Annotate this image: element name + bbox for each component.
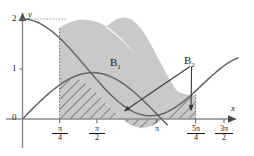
b2-arrow-vertical bbox=[191, 67, 192, 111]
x-tick-label-pi-over-2: π 2 bbox=[89, 125, 105, 143]
y-axis-label: y bbox=[28, 10, 32, 19]
x-tick-label-pi: π bbox=[150, 125, 164, 133]
y-tick-label-1: 1 bbox=[12, 64, 17, 73]
x-axis-label: x bbox=[231, 104, 235, 113]
region-label-b1: B1 bbox=[110, 57, 121, 71]
x-tick-pi-over-2-numerator: π bbox=[89, 125, 105, 133]
region-label-b2: B2 bbox=[184, 55, 195, 69]
x-tick-label-3pi-over-2: 3π 2 bbox=[215, 125, 233, 143]
x-tick-5pi-over-4-numerator: 5π bbox=[187, 125, 205, 133]
x-tick-pi-numerator: π bbox=[150, 125, 164, 133]
y-tick-label-0: 0 bbox=[12, 113, 17, 122]
x-tick-3pi-over-2-numerator: 3π bbox=[215, 125, 233, 133]
x-tick-5pi-over-4-denominator: 4 bbox=[187, 133, 205, 142]
x-tick-pi-over-4-numerator: π bbox=[52, 125, 68, 133]
region-label-b2-subscript: 2 bbox=[191, 61, 195, 69]
x-tick-3pi-over-2-denominator: 2 bbox=[215, 133, 233, 142]
figure-canvas: y x 2 1 0 π 4 π 2 π 5π 4 3π 2 B1 B2 bbox=[0, 0, 254, 156]
y-tick-label-2: 2 bbox=[12, 14, 17, 23]
x-tick-label-pi-over-4: π 4 bbox=[52, 125, 68, 143]
x-tick-pi-over-2-denominator: 2 bbox=[89, 133, 105, 142]
x-tick-label-5pi-over-4: 5π 4 bbox=[187, 125, 205, 143]
region-label-b1-subscript: 1 bbox=[117, 63, 121, 71]
x-tick-pi-over-4-denominator: 4 bbox=[52, 133, 68, 142]
